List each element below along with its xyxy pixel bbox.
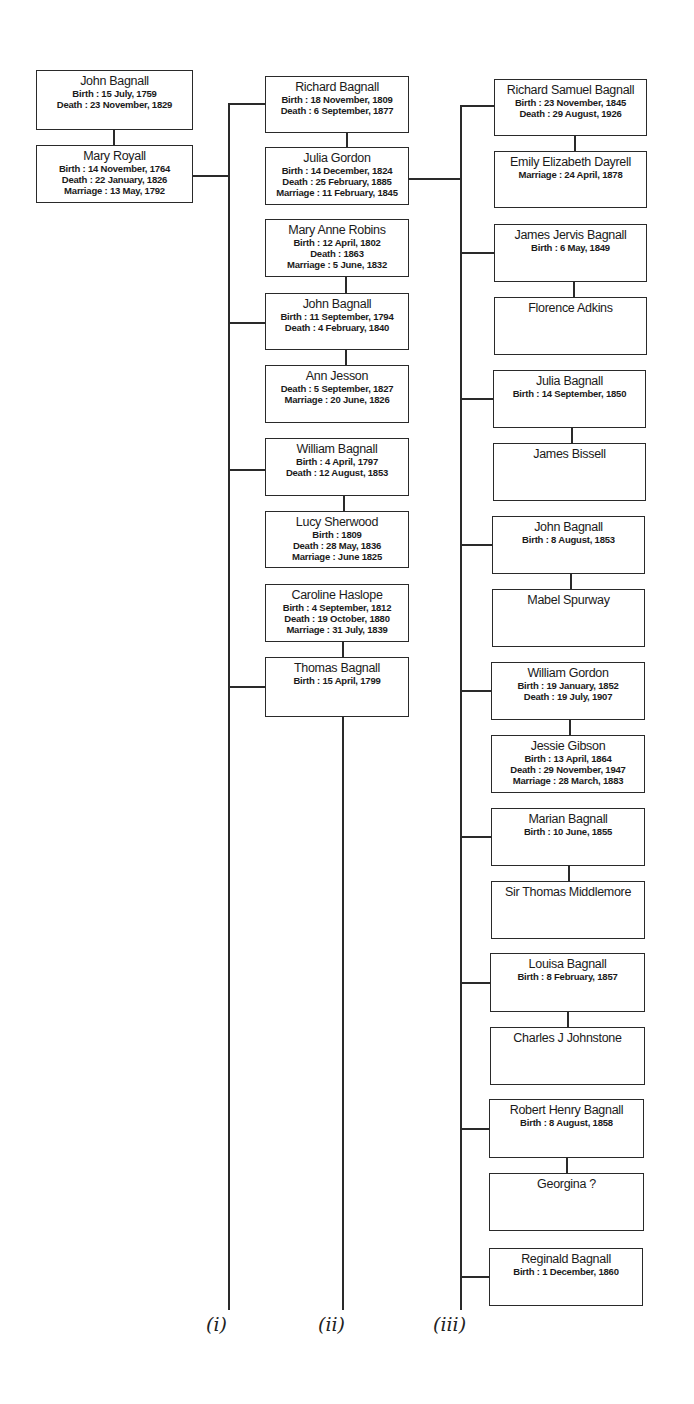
spouse-connector: [345, 350, 347, 365]
person-box: William Bagnall Birth : 4 April, 1797 De…: [265, 438, 409, 496]
person-box: Robert Henry Bagnall Birth : 8 August, 1…: [489, 1099, 644, 1158]
spouse-connector: [566, 1158, 568, 1173]
birth-fact: Birth : 23 November, 1845: [495, 97, 646, 108]
person-name: Jessie Gibson: [492, 739, 644, 753]
spouse-connector: [113, 130, 115, 145]
person-name: John Bagnall: [493, 520, 644, 534]
death-fact: Death : 25 February, 1885: [266, 176, 408, 187]
person-box: John Bagnall Birth : 8 August, 1853: [492, 516, 645, 574]
death-fact: Death : 19 October, 1880: [266, 613, 408, 624]
person-name: William Bagnall: [266, 442, 408, 456]
spouse-connector: [573, 282, 575, 297]
person-box: Mabel Spurway: [492, 589, 645, 647]
spouse-connector: [567, 1012, 569, 1027]
person-name: Mabel Spurway: [493, 593, 644, 607]
child-connector: [460, 690, 491, 692]
generation-label-iii: (iii): [433, 1313, 466, 1335]
spouse-connector: [343, 496, 345, 511]
person-name: Louisa Bagnall: [491, 957, 644, 971]
person-name: Charles J Johnstone: [491, 1031, 644, 1045]
person-box: John Bagnall Birth : 11 September, 1794 …: [265, 293, 409, 350]
person-box: John Bagnall Birth : 15 July, 1759 Death…: [36, 70, 193, 130]
birth-fact: Birth : 10 June, 1855: [492, 826, 644, 837]
person-name: Robert Henry Bagnall: [490, 1103, 643, 1117]
person-name: Ann Jesson: [266, 369, 408, 383]
person-name: Marian Bagnall: [492, 812, 644, 826]
marriage-fact: Marriage : 20 June, 1826: [266, 394, 408, 405]
spouse-connector: [571, 428, 573, 443]
birth-fact: Birth : 8 August, 1858: [490, 1117, 643, 1128]
person-name: Richard Samuel Bagnall: [495, 83, 646, 97]
person-box: Emily Elizabeth Dayrell Marriage : 24 Ap…: [494, 151, 647, 208]
person-box: Jessie Gibson Birth : 13 April, 1864 Dea…: [491, 735, 645, 793]
person-name: John Bagnall: [266, 297, 408, 311]
marriage-fact: Marriage : 28 March, 1883: [492, 775, 644, 786]
death-fact: Death : 29 August, 1926: [495, 108, 646, 119]
spouse-connector: [342, 642, 344, 657]
generation-label-ii: (ii): [318, 1313, 345, 1335]
marriage-fact: Marriage : 5 June, 1832: [266, 259, 408, 270]
death-fact: Death : 4 February, 1840: [266, 322, 408, 333]
person-box: Lucy Sherwood Birth : 1809 Death : 28 Ma…: [265, 511, 409, 568]
spouse-connector: [345, 277, 347, 293]
person-box: James Jervis Bagnall Birth : 6 May, 1849: [494, 224, 647, 282]
person-box: Richard Samuel Bagnall Birth : 23 Novemb…: [494, 79, 647, 136]
birth-fact: Birth : 12 April, 1802: [266, 237, 408, 248]
child-connector: [460, 1276, 489, 1278]
person-name: John Bagnall: [37, 74, 192, 88]
child-connector: [228, 322, 265, 324]
birth-fact: Birth : 1 December, 1860: [490, 1266, 642, 1277]
person-box: Sir Thomas Middlemore: [491, 881, 645, 939]
death-fact: Death : 6 September, 1877: [266, 105, 408, 116]
person-box: James Bissell: [493, 443, 646, 501]
spouse-connector: [574, 136, 576, 151]
child-connector: [460, 1128, 489, 1130]
generation-label-i: (i): [206, 1313, 227, 1335]
person-name: Lucy Sherwood: [266, 515, 408, 529]
spouse-connector: [568, 866, 570, 881]
person-box: Caroline Haslope Birth : 4 September, 18…: [265, 584, 409, 642]
child-connector: [460, 252, 494, 254]
marriage-fact: Marriage : 13 May, 1792: [37, 185, 192, 196]
birth-fact: Birth : 18 November, 1809: [266, 94, 408, 105]
generation-line-ii: [342, 717, 344, 1310]
spouse-connector: [346, 133, 348, 147]
marriage-fact: Marriage : 24 April, 1878: [495, 169, 646, 180]
birth-fact: Birth : 15 July, 1759: [37, 88, 192, 99]
person-box: Mary Royall Birth : 14 November, 1764 De…: [36, 145, 193, 203]
person-name: James Bissell: [494, 447, 645, 461]
person-name: Caroline Haslope: [266, 588, 408, 602]
birth-fact: Birth : 8 February, 1857: [491, 971, 644, 982]
person-box: Ann Jesson Death : 5 September, 1827 Mar…: [265, 365, 409, 423]
person-box: Thomas Bagnall Birth : 15 April, 1799: [265, 657, 409, 717]
person-name: Mary Royall: [37, 149, 192, 163]
spouse-connector: [569, 720, 571, 735]
person-box: Reginald Bagnall Birth : 1 December, 186…: [489, 1248, 643, 1306]
death-fact: Death : 23 November, 1829: [37, 99, 192, 110]
child-connector: [460, 544, 492, 546]
generation-line-i: [228, 103, 230, 1310]
person-name: Sir Thomas Middlemore: [492, 885, 644, 899]
birth-fact: Birth : 1809: [266, 529, 408, 540]
person-name: Thomas Bagnall: [266, 661, 408, 675]
birth-fact: Birth : 14 September, 1850: [494, 388, 645, 399]
person-box: Mary Anne Robins Birth : 12 April, 1802 …: [265, 219, 409, 277]
person-name: Florence Adkins: [495, 301, 646, 315]
person-box: Richard Bagnall Birth : 18 November, 180…: [265, 76, 409, 133]
death-fact: Death : 29 November, 1947: [492, 764, 644, 775]
marriage-fact: Marriage : 11 February, 1845: [266, 187, 408, 198]
child-connector: [228, 686, 265, 688]
birth-fact: Birth : 4 September, 1812: [266, 602, 408, 613]
birth-fact: Birth : 13 April, 1864: [492, 753, 644, 764]
child-connector: [228, 103, 265, 105]
birth-fact: Birth : 15 April, 1799: [266, 675, 408, 686]
birth-fact: Birth : 14 December, 1824: [266, 165, 408, 176]
person-name: Julia Bagnall: [494, 374, 645, 388]
marriage-fact: Marriage : 31 July, 1839: [266, 624, 408, 635]
birth-fact: Birth : 6 May, 1849: [495, 242, 646, 253]
person-name: Julia Gordon: [266, 151, 408, 165]
death-fact: Death : 28 May, 1836: [266, 540, 408, 551]
person-name: William Gordon: [492, 666, 644, 680]
birth-fact: Birth : 8 August, 1853: [493, 534, 644, 545]
death-fact: Death : 1863: [266, 248, 408, 259]
